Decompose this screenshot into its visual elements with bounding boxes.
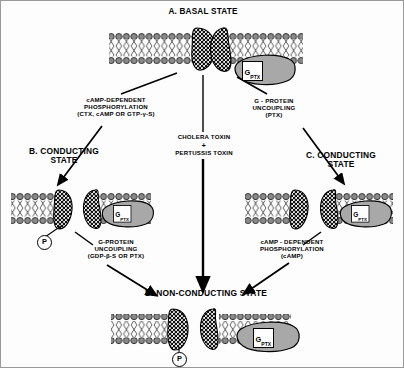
arrow-a-to-b-lower [63,126,102,178]
arrow-b-to-d-lower [107,265,149,291]
gprotein-label-sub-b: PTX [120,217,129,222]
panel-d-channel [168,309,218,350]
panel-a-channel [192,28,231,71]
arrow-a-to-c-lower [303,128,339,177]
phosphate-circle-panel-d: P [172,352,187,367]
figure-canvas: A. BASAL STATE B. CONDUCTING STATE C. CO… [0,0,404,368]
arrow-c-to-d-upper [303,232,321,245]
gprotein-label-sub-c: PTX [358,217,367,222]
gprotein-label-panel-c: GPTX [351,205,369,223]
gprotein-label-sub-a: PTX [250,74,260,80]
gprotein-label-panel-b: GPTX [113,205,131,223]
panel-c-channel [290,190,338,229]
panel-b-channel [54,190,101,229]
phosphate-circle-panel-b: P [37,235,52,250]
diagram-artwork [1,1,404,368]
gprotein-label-panel-d: GPTX [253,328,274,348]
arrow-a-to-b-upper [121,73,177,94]
gprotein-label-panel-a: GPTX [242,61,263,81]
arrow-c-to-d-lower [251,263,289,289]
arrow-b-to-d-upper [75,232,93,245]
gprotein-label-sub-d: PTX [261,341,271,347]
